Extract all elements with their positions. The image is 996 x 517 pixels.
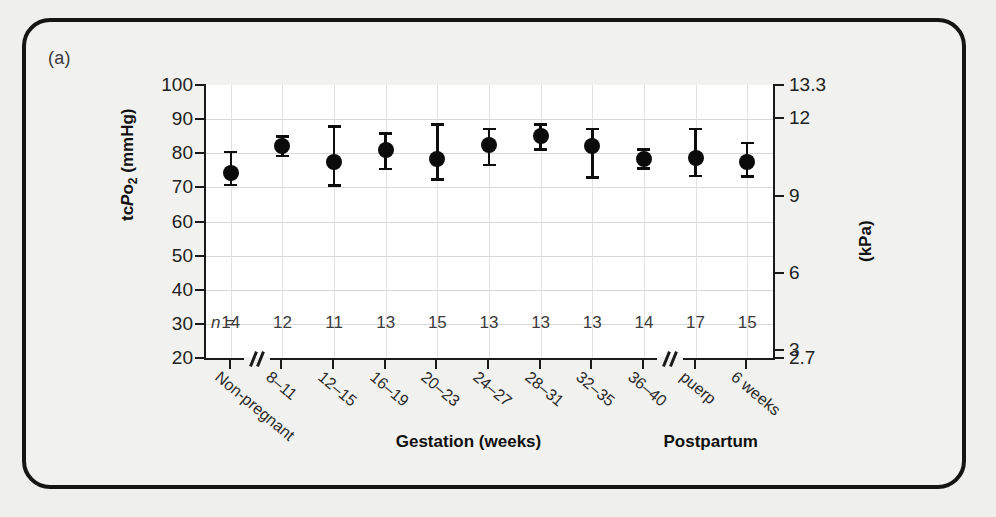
error-bar-cap-upper bbox=[328, 125, 341, 128]
y-tick-left bbox=[195, 323, 204, 325]
y-axis-right-title: (kPa) bbox=[856, 220, 876, 262]
y-tick-label-right: 3 bbox=[789, 339, 800, 361]
y-tick-label-left: 90 bbox=[172, 108, 193, 130]
y-tick-left bbox=[195, 221, 204, 223]
data-point-marker bbox=[378, 142, 394, 158]
x-tick bbox=[280, 360, 282, 369]
y-tick-label-left: 20 bbox=[172, 347, 193, 369]
y-tick-right bbox=[775, 117, 784, 119]
sample-size-value: 14 bbox=[221, 313, 240, 333]
error-bar-cap-lower bbox=[586, 176, 599, 179]
sample-size-value: 11 bbox=[325, 313, 343, 333]
x-tick bbox=[642, 360, 644, 369]
y-tick-label-left: 70 bbox=[172, 176, 193, 198]
error-bar-cap-upper bbox=[689, 128, 702, 131]
error-bar-cap-lower bbox=[328, 184, 341, 187]
error-bar-cap-lower bbox=[637, 167, 650, 170]
error-bar-cap-upper bbox=[224, 151, 237, 154]
y-tick-label-left: 100 bbox=[161, 74, 193, 96]
y-tick-label-left: 30 bbox=[172, 313, 193, 335]
y-tick-label-left: 60 bbox=[172, 211, 193, 233]
sample-size-value: 13 bbox=[480, 313, 499, 333]
error-bar-cap-upper bbox=[741, 142, 754, 145]
y-tick-right bbox=[775, 272, 784, 274]
y-tick-right bbox=[775, 84, 784, 86]
y-tick-label-left: 40 bbox=[172, 279, 193, 301]
x-tick bbox=[384, 360, 386, 369]
x-tick bbox=[590, 360, 592, 369]
error-bar-cap-lower bbox=[534, 148, 547, 151]
y-tick-label-right: 9 bbox=[789, 185, 800, 207]
sample-size-value: 17 bbox=[686, 313, 705, 333]
error-bar-cap-upper bbox=[586, 128, 599, 131]
error-bar-cap-lower bbox=[483, 164, 496, 167]
panel-label: (a) bbox=[48, 48, 71, 69]
y-tick-left bbox=[195, 118, 204, 120]
error-bar-cap-lower bbox=[379, 168, 392, 171]
y-tick-left bbox=[195, 186, 204, 188]
axis-break-cover bbox=[244, 357, 270, 361]
x-axis bbox=[204, 358, 775, 360]
y-tick-left bbox=[195, 84, 204, 86]
sample-size-value: 13 bbox=[531, 313, 550, 333]
error-bar-cap-upper bbox=[379, 132, 392, 135]
error-bar-cap-lower bbox=[276, 155, 289, 158]
x-tick bbox=[332, 360, 334, 369]
error-bar-cap-upper bbox=[483, 128, 496, 131]
y-tick-left bbox=[195, 152, 204, 154]
y-tick-label-right: 13.3 bbox=[789, 74, 826, 96]
sample-size-value: 12 bbox=[273, 313, 292, 333]
sample-size-value: 15 bbox=[738, 313, 757, 333]
group-label-postpartum: Postpartum bbox=[664, 432, 758, 452]
data-point-marker bbox=[533, 128, 549, 144]
error-bar-cap-upper bbox=[534, 123, 547, 126]
y-tick-label-right: 6 bbox=[789, 262, 800, 284]
data-point-marker bbox=[584, 138, 600, 154]
sample-size-value: 13 bbox=[376, 313, 395, 333]
y-tick-label-left: 50 bbox=[172, 245, 193, 267]
y-tick-left bbox=[195, 255, 204, 257]
y-tick-label-right: 12 bbox=[789, 107, 810, 129]
axis-break-cover bbox=[657, 357, 683, 361]
y-axis-left bbox=[204, 84, 206, 360]
error-bar-cap-lower bbox=[741, 175, 754, 178]
error-bar-cap-lower bbox=[689, 175, 702, 178]
x-tick bbox=[539, 360, 541, 369]
error-bar-cap-lower bbox=[224, 184, 237, 187]
x-tick bbox=[435, 360, 437, 369]
data-point-marker bbox=[688, 150, 704, 166]
y-axis-right bbox=[773, 84, 775, 360]
y-tick-left bbox=[195, 357, 204, 359]
y-tick-right bbox=[775, 349, 784, 351]
y-tick-left bbox=[195, 289, 204, 291]
y-tick-right bbox=[775, 357, 784, 359]
y-axis-left-title: tcPo2 (mmHg) bbox=[118, 109, 140, 222]
sample-size-value: 15 bbox=[428, 313, 447, 333]
data-point-marker bbox=[636, 151, 652, 167]
error-bar-cap-lower bbox=[431, 178, 444, 181]
data-point-marker bbox=[223, 165, 239, 181]
sample-size-value: 13 bbox=[583, 313, 602, 333]
x-tick bbox=[487, 360, 489, 369]
y-tick-right bbox=[775, 195, 784, 197]
figure-root: (a) 2030405060708090100 2.73691213.3 Non… bbox=[0, 0, 996, 517]
x-tick bbox=[229, 360, 231, 369]
x-tick bbox=[694, 360, 696, 369]
y-tick-label-left: 80 bbox=[172, 142, 193, 164]
group-label-gestation: Gestation (weeks) bbox=[396, 432, 542, 452]
error-bar-cap-upper bbox=[431, 123, 444, 126]
x-tick bbox=[745, 360, 747, 369]
sample-size-value: 14 bbox=[634, 313, 653, 333]
